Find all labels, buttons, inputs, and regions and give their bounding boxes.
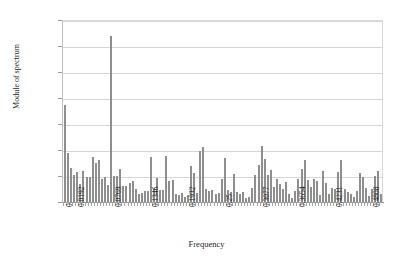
x-axis-tick-mark	[63, 202, 64, 206]
bar	[285, 182, 287, 202]
x-axis-tick-mark	[352, 202, 353, 206]
bar	[162, 190, 164, 202]
x-axis-tick-mark	[244, 202, 245, 206]
x-axis-tick-mark	[321, 202, 322, 206]
x-axis-tick-label: 0.0769	[115, 186, 123, 207]
bar	[362, 177, 364, 202]
bar	[239, 194, 241, 202]
x-axis-tick-mark	[143, 202, 144, 206]
bar	[135, 189, 137, 202]
bar	[282, 189, 284, 202]
bar	[70, 168, 72, 202]
bar	[138, 194, 140, 202]
bar	[125, 186, 127, 202]
x-axis-tick-label: 0.4231	[336, 186, 344, 207]
bar	[221, 179, 223, 202]
x-axis-tick-mark	[164, 202, 165, 206]
x-axis-tick-mark	[214, 202, 215, 206]
x-axis-tick-mark	[198, 202, 199, 206]
y-axis-tick-mark	[58, 98, 62, 99]
x-axis-tick-mark	[210, 202, 211, 206]
x-axis-tick-mark	[235, 202, 236, 206]
bar	[313, 179, 315, 202]
bar	[67, 153, 69, 202]
x-axis-tick-mark	[293, 202, 294, 206]
bar	[236, 192, 238, 202]
bar	[350, 194, 352, 202]
x-axis-tick-mark	[88, 202, 89, 206]
x-axis-tick-mark	[124, 202, 125, 206]
x-axis-tick-mark	[327, 202, 328, 206]
bar	[359, 173, 361, 202]
bar	[208, 191, 210, 202]
y-axis-tick-mark	[58, 72, 62, 73]
bar	[101, 179, 103, 202]
bar	[294, 191, 296, 202]
x-axis-tick-mark	[318, 202, 319, 206]
bar	[254, 175, 256, 202]
x-axis-tick-mark	[324, 202, 325, 206]
x-axis-tick-label: 0.1932	[189, 186, 197, 207]
x-axis-tick-label: 0.3654	[299, 186, 307, 207]
x-axis-tick-mark	[97, 202, 98, 206]
bar	[310, 187, 312, 202]
bar	[168, 181, 170, 202]
x-axis-tick-mark	[315, 202, 316, 206]
x-axis-tick-mark	[223, 202, 224, 206]
x-axis-tick-mark	[355, 202, 356, 206]
bar	[319, 195, 321, 202]
x-axis-label: Frequency	[0, 239, 413, 249]
x-axis-tick-mark	[349, 202, 350, 206]
bar	[178, 195, 180, 202]
x-axis-tick-mark	[149, 202, 150, 206]
x-axis-tick-mark	[287, 202, 288, 206]
x-axis-tick-mark	[238, 202, 239, 206]
x-axis-tick-mark	[171, 202, 172, 206]
bar	[73, 175, 75, 202]
x-axis-tick-mark	[177, 202, 178, 206]
x-axis-tick-mark	[207, 202, 208, 206]
bar	[89, 177, 91, 202]
bar	[347, 192, 349, 202]
bar	[92, 157, 94, 203]
x-axis-tick-mark	[146, 202, 147, 206]
bar	[132, 181, 134, 202]
x-axis-tick-mark	[278, 202, 279, 206]
bar	[211, 190, 213, 202]
bar	[365, 188, 367, 202]
x-axis-tick-mark	[330, 202, 331, 206]
x-axis-tick-mark	[131, 202, 132, 206]
bar	[165, 156, 167, 202]
spectrum-chart-figure: Module of spectrum Frequency 01000020000…	[0, 0, 413, 259]
x-axis-tick-label: 0.4808	[373, 186, 381, 207]
y-axis-tick-mark	[58, 20, 62, 21]
x-axis-tick-mark	[217, 202, 218, 206]
x-axis-tick-label: 0.1346	[152, 186, 160, 207]
x-axis-tick-mark	[109, 202, 110, 206]
y-axis-tick-mark	[58, 202, 62, 203]
x-axis-tick-mark	[140, 202, 141, 206]
bar	[279, 184, 281, 202]
bar	[251, 188, 253, 202]
x-axis-tick-mark	[257, 202, 258, 206]
bar	[110, 36, 112, 202]
y-axis-label: Module of spectrum	[12, 17, 21, 137]
x-axis-tick-mark	[201, 202, 202, 206]
x-axis-tick-mark	[367, 202, 368, 206]
bar	[147, 191, 149, 202]
x-axis-tick-mark	[241, 202, 242, 206]
bar	[242, 192, 244, 202]
x-axis-tick-mark	[112, 202, 113, 206]
x-axis-tick-mark	[253, 202, 254, 206]
x-axis-tick-mark	[100, 202, 101, 206]
bar	[276, 179, 278, 202]
bar	[215, 194, 217, 202]
x-axis-tick-mark	[281, 202, 282, 206]
x-axis-tick-mark	[204, 202, 205, 206]
bar	[104, 177, 106, 202]
x-axis-tick-mark	[186, 202, 187, 206]
bar	[172, 180, 174, 202]
bar	[144, 191, 146, 202]
y-axis-tick-mark	[58, 150, 62, 151]
x-axis-tick-label: 0	[66, 203, 74, 207]
